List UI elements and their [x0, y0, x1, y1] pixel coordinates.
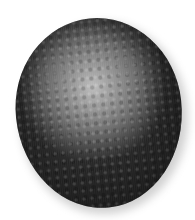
ovoid-object [7, 10, 192, 216]
image-canvas [0, 0, 195, 220]
edge-shading [7, 10, 192, 216]
